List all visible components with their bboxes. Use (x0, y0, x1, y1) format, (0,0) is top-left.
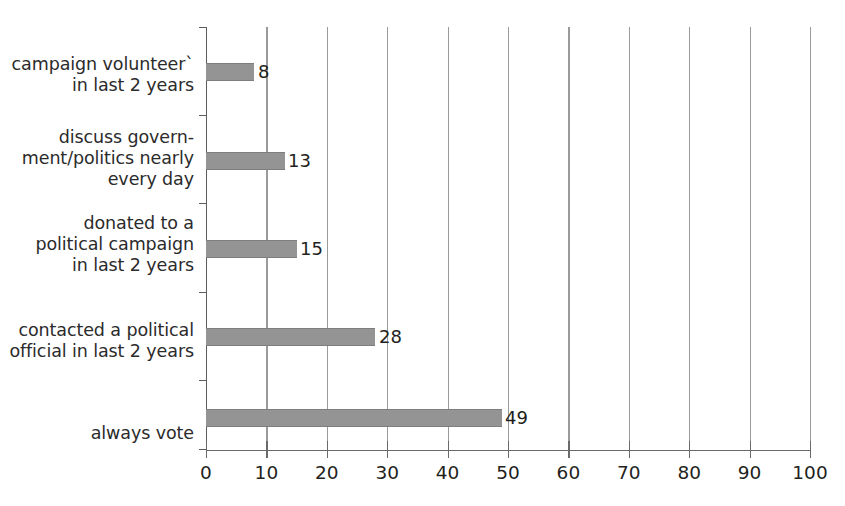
category-label-always-vote: always vote (0, 423, 194, 444)
category-axis-labels: campaign volunteer` in last 2 years disc… (0, 27, 200, 450)
x-axis-tick-down-30 (387, 450, 388, 458)
x-axis-tick-20 (327, 441, 328, 450)
gridline-60 (568, 27, 569, 450)
x-axis-tick-down-0 (206, 450, 207, 458)
category-label-discuss-government: discuss govern- ment/politics nearly eve… (0, 127, 194, 190)
gridline-80 (689, 27, 690, 450)
x-axis-label-80: 80 (677, 462, 701, 484)
x-axis-label-40: 40 (436, 462, 460, 484)
bar-chart: campaign volunteer` in last 2 years disc… (0, 0, 845, 506)
gridline-10 (266, 27, 267, 450)
y-axis-tick-0 (199, 27, 206, 28)
x-axis-label-50: 50 (496, 462, 520, 484)
x-axis-tick-40 (448, 441, 449, 450)
x-axis-tick-60 (568, 441, 569, 450)
gridline-30 (387, 27, 388, 450)
y-axis-tick-1 (199, 115, 206, 116)
gridline-50 (508, 27, 509, 450)
x-axis-tick-30 (387, 441, 388, 450)
y-axis-tick-2 (199, 203, 206, 204)
x-axis-label-90: 90 (738, 462, 762, 484)
y-axis-line (206, 27, 207, 450)
bar-campaign-volunteer[interactable] (206, 63, 254, 81)
y-axis-tick-3 (199, 292, 206, 293)
x-axis-tick-0 (206, 441, 207, 450)
x-axis-label-30: 30 (375, 462, 399, 484)
gridline-70 (629, 27, 630, 450)
x-axis-label-70: 70 (617, 462, 641, 484)
x-axis-tick-50 (508, 441, 509, 450)
category-label-campaign-volunteer: campaign volunteer` in last 2 years (0, 54, 194, 96)
bar-value-contacted-official: 28 (379, 328, 402, 346)
gridline-40 (448, 27, 449, 450)
x-axis-tick-down-50 (508, 450, 509, 458)
bar-value-campaign-volunteer: 8 (258, 63, 269, 81)
x-axis-tick-90 (750, 441, 751, 450)
x-axis-tick-down-40 (448, 450, 449, 458)
x-axis-label-10: 10 (255, 462, 279, 484)
x-axis-label-60: 60 (557, 462, 581, 484)
x-axis-tick-10 (266, 441, 267, 450)
bar-value-always-vote: 49 (505, 409, 528, 427)
x-axis-tick-down-70 (629, 450, 630, 458)
x-axis-tick-down-90 (750, 450, 751, 458)
bar-discuss-government[interactable] (206, 152, 285, 170)
bar-always-vote[interactable] (206, 409, 502, 427)
y-axis-tick-5 (199, 449, 206, 450)
x-axis-label-100: 100 (792, 462, 827, 484)
bar-value-discuss-government: 13 (288, 152, 311, 170)
y-axis-tick-4 (199, 380, 206, 381)
gridline-90 (750, 27, 751, 450)
x-axis-tick-down-80 (689, 450, 690, 458)
gridline-100 (810, 27, 811, 450)
x-axis-tick-down-10 (266, 450, 267, 458)
x-axis-tick-80 (689, 441, 690, 450)
x-axis-tick-down-60 (568, 450, 569, 458)
plot-area: 8 13 15 28 49 (206, 27, 810, 450)
gridline-20 (327, 27, 328, 450)
x-axis-tick-down-20 (327, 450, 328, 458)
x-axis-label-20: 20 (315, 462, 339, 484)
x-axis-tick-100 (810, 441, 811, 450)
category-label-donated-campaign: donated to a political campaign in last … (0, 213, 194, 276)
x-axis-tick-down-100 (810, 450, 811, 458)
category-label-contacted-official: contacted a political official in last 2… (0, 320, 194, 362)
bar-value-donated-campaign: 15 (300, 240, 323, 258)
x-axis-label-0: 0 (200, 462, 212, 484)
x-axis-tick-70 (629, 441, 630, 450)
bar-donated-campaign[interactable] (206, 240, 297, 258)
bar-contacted-official[interactable] (206, 328, 375, 346)
